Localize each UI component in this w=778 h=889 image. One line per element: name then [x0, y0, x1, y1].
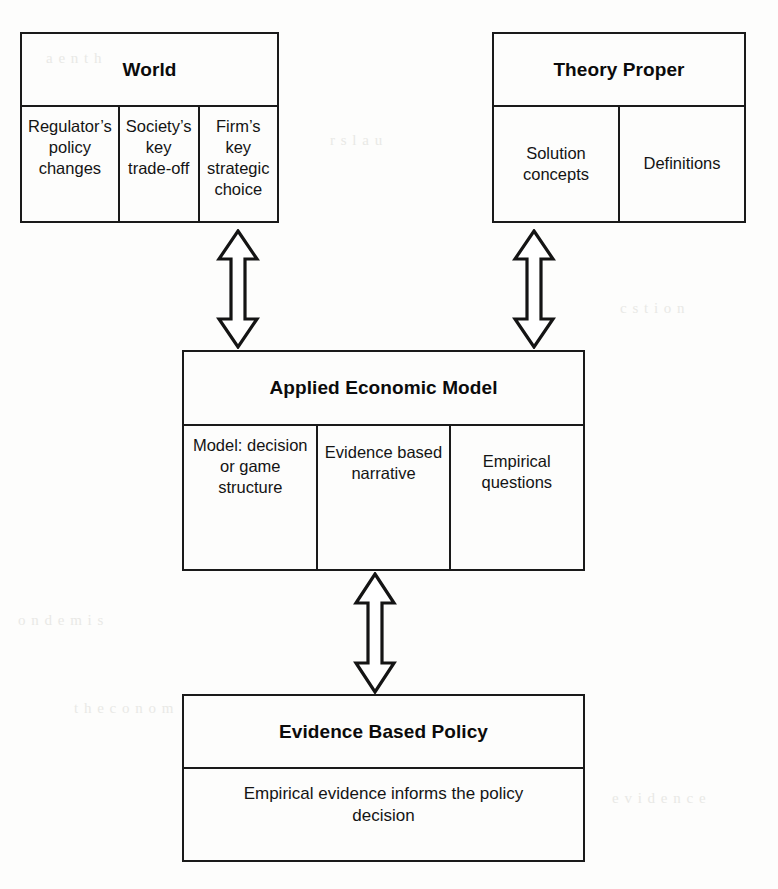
connector-model-to-policy [353, 572, 397, 694]
model-cell-empirical-questions: Empirical questions [449, 426, 583, 569]
scan-artifact: e v i d e n c e [612, 790, 707, 807]
evidence-based-policy-box-cells: Empirical evidence informs the policy de… [184, 769, 583, 860]
world-cell-society-key-tradeoff: Society’s key trade-off [118, 107, 198, 221]
scan-artifact: t h e c o n o m [74, 700, 174, 717]
world-box-cells: Regulator’s policy changes Society’s key… [22, 107, 277, 221]
scan-artifact: r s l a u [330, 132, 383, 149]
evidence-based-policy-box: Evidence Based Policy Empirical evidence… [182, 694, 585, 862]
scan-artifact: o n d e m i s [18, 612, 104, 629]
theory-proper-box: Theory Proper Solution concepts Definiti… [492, 32, 746, 223]
world-box-title: World [22, 34, 277, 107]
world-cell-firm-key-strategic-choice: Firm’s key strategic choice [198, 107, 277, 221]
world-box: World Regulator’s policy changes Society… [20, 32, 279, 223]
policy-cell-empirical-evidence-informs-decision: Empirical evidence informs the policy de… [184, 769, 583, 860]
world-cell-regulator-policy-changes: Regulator’s policy changes [22, 107, 118, 221]
theory-cell-definitions: Definitions [618, 107, 744, 221]
applied-economic-model-box-cells: Model: decision or game structure Eviden… [184, 426, 583, 569]
connector-world-to-model [216, 229, 260, 349]
model-cell-evidence-based-narrative: Evidence based narrative [316, 426, 448, 569]
connector-theory-to-model [512, 229, 556, 349]
applied-economic-model-box-title: Applied Economic Model [184, 352, 583, 426]
diagram-canvas: a e n t h r s l a u o n d e m i s t h e … [0, 0, 778, 889]
model-cell-model-decision-or-game-structure: Model: decision or game structure [184, 426, 316, 569]
theory-proper-box-cells: Solution concepts Definitions [494, 107, 744, 221]
theory-proper-box-title: Theory Proper [494, 34, 744, 107]
theory-cell-solution-concepts: Solution concepts [494, 107, 618, 221]
evidence-based-policy-box-title: Evidence Based Policy [184, 696, 583, 769]
applied-economic-model-box: Applied Economic Model Model: decision o… [182, 350, 585, 571]
scan-artifact: c s t i o n [620, 300, 686, 317]
